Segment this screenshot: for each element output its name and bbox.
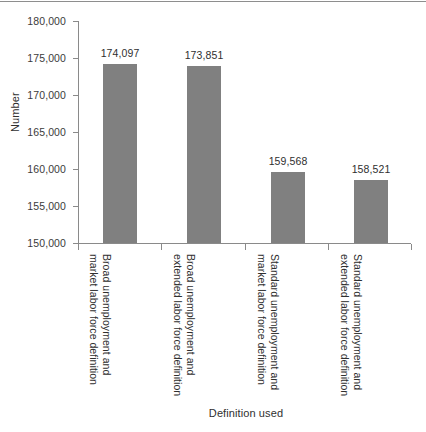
x-tick-mark [245,244,246,250]
x-category-label-standard-market: Standard unemployment and market labor f… [247,254,281,394]
x-category-label-line1: Standard unemployment and [269,254,282,394]
y-tick-label-150000: 150,000 [27,238,66,249]
y-axis-line [78,21,79,243]
bar-value-label: 173,851 [164,50,244,61]
x-tick-mark [78,244,79,250]
y-tick-label-165000: 165,000 [27,127,66,138]
x-category-label-line2: market labor force definition [88,254,101,394]
x-category-label-line2: extended labor force definition [172,254,185,394]
x-category-label-line1: Standard unemployment and [352,254,365,394]
x-category-label-line1: Broad unemployment and [101,254,114,394]
bar-chart: Number 180,000 175,000 170,000 165,000 1… [0,0,426,432]
bar-value-label: 158,521 [331,164,411,175]
y-tick-label-170000: 170,000 [27,90,66,101]
x-axis-title: Definition used [0,408,426,419]
y-tick-label-155000: 155,000 [27,201,66,212]
y-axis-title: Number [10,92,21,132]
bar-standard-extended[interactable] [354,180,388,243]
x-category-label-line1: Broad unemployment and [185,254,198,394]
y-tick-label-180000: 180,000 [27,16,66,27]
x-tick-mark [161,244,162,250]
x-tick-mark [328,244,329,250]
y-tick-label-175000: 175,000 [27,53,66,64]
x-category-label-broad-market: Broad unemployment and market labor forc… [79,254,113,394]
x-category-label-standard-extended: Standard unemployment and extended labor… [330,254,364,394]
bar-standard-market[interactable] [271,172,305,243]
x-tick-mark [411,244,412,250]
bar-value-label: 174,097 [80,48,160,59]
x-category-label-line2: extended labor force definition [339,254,352,394]
bar-broad-extended[interactable] [187,66,221,243]
x-category-label-broad-extended: Broad unemployment and extended labor fo… [163,254,197,394]
bar-value-label: 159,568 [248,156,328,167]
x-category-label-line2: market labor force definition [256,254,269,394]
y-tick-label-160000: 160,000 [27,164,66,175]
bar-broad-market[interactable] [103,64,137,243]
